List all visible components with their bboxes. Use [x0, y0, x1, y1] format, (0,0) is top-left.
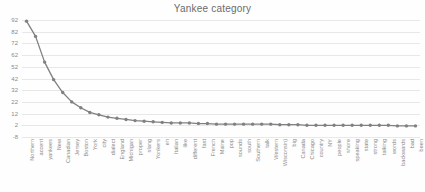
x-axis-tick-label: Italian — [173, 139, 179, 154]
data-point — [197, 122, 200, 125]
x-axis-tick-label: state — [363, 139, 369, 151]
y-axis-tick-label: 52 — [11, 64, 18, 70]
data-point — [278, 123, 281, 126]
data-point — [88, 111, 91, 114]
x-axis-tick-label: proper — [137, 139, 143, 155]
data-point — [396, 124, 399, 127]
x-axis-tick-label: different — [192, 139, 198, 159]
data-point — [224, 122, 227, 125]
data-point — [151, 120, 154, 123]
x-axis-tick-label: England — [119, 139, 125, 160]
data-point — [97, 113, 100, 116]
x-axis-tick-label: Michigan — [128, 139, 134, 161]
data-point — [233, 122, 236, 125]
data-point — [179, 121, 182, 124]
x-axis-tick-label: south — [246, 139, 252, 153]
x-axis-tick-label: dialect — [110, 139, 116, 155]
y-axis-tick-label: 12 — [11, 111, 18, 117]
line-series — [22, 20, 420, 137]
data-point — [323, 124, 326, 127]
data-point — [314, 124, 317, 127]
x-axis-tick-label: Canada — [300, 139, 306, 159]
data-point — [360, 124, 363, 127]
y-axis-tick-label: 62 — [11, 52, 18, 58]
y-axis-tick-label: 82 — [11, 29, 18, 35]
chart-container: Yankee category 9282726252423222122-8 No… — [0, 0, 425, 192]
y-axis-tick-label: 42 — [11, 76, 18, 82]
y-axis-tick-label: 2 — [15, 122, 18, 128]
x-axis-tick-label: city — [101, 139, 107, 147]
data-point — [369, 124, 372, 127]
data-point — [106, 115, 109, 118]
data-point — [296, 123, 299, 126]
x-axis-tick-label: shore — [345, 139, 351, 153]
data-point — [133, 119, 136, 122]
data-point — [269, 122, 272, 125]
x-axis-tick-label: sounds — [237, 139, 243, 157]
data-point — [332, 124, 335, 127]
y-axis-tick-label: 32 — [11, 87, 18, 93]
chart-title: Yankee category — [0, 3, 425, 14]
data-point — [70, 100, 73, 103]
data-point — [61, 91, 64, 94]
data-point — [52, 78, 55, 81]
x-axis-tick-label: strong — [372, 139, 378, 155]
data-point — [25, 19, 28, 22]
data-point — [34, 35, 37, 38]
data-point — [287, 123, 290, 126]
data-point — [79, 106, 82, 109]
x-axis-tick-label: country — [318, 139, 324, 157]
data-point — [124, 118, 127, 121]
data-point — [378, 124, 381, 127]
x-axis-tick-label: talking — [381, 139, 387, 155]
data-point — [387, 124, 390, 127]
x-axis-tick-label: people — [336, 139, 342, 156]
series-line — [27, 21, 416, 126]
data-point — [215, 122, 218, 125]
data-point — [142, 120, 145, 123]
data-point — [170, 121, 173, 124]
x-axis-tick-label: Western — [273, 139, 279, 160]
x-axis: NorthernaccentyankeesNewCanadianJerseyBo… — [22, 139, 420, 192]
x-axis-tick-label: big — [291, 139, 297, 146]
x-axis-tick-label: bad — [409, 139, 415, 148]
x-axis-tick-label: NY — [327, 139, 333, 147]
x-axis-tick-label: pop — [228, 139, 234, 148]
data-point — [350, 124, 353, 127]
x-axis-tick-label: speaking — [354, 139, 360, 161]
x-axis-tick-label: talk — [264, 139, 270, 148]
x-axis-tick-label: been — [418, 139, 424, 151]
x-axis-tick-label: fast — [201, 139, 207, 148]
x-axis-tick-label: slang — [146, 139, 152, 152]
gridline — [22, 137, 420, 138]
data-point — [260, 122, 263, 125]
x-axis-tick-label: words — [391, 139, 397, 154]
x-axis-tick-label: New — [56, 139, 62, 150]
x-axis-tick-label: Wisconsin) — [282, 139, 288, 166]
data-point — [115, 117, 118, 120]
y-axis: 9282726252423222122-8 — [0, 20, 20, 137]
x-axis-tick-label: backwards — [400, 139, 406, 166]
x-axis-tick-label: Northern — [29, 139, 35, 161]
y-axis-tick-label: 22 — [11, 99, 18, 105]
data-point — [341, 124, 344, 127]
y-axis-tick-label: 92 — [11, 17, 18, 23]
x-axis-tick-label: accent — [38, 139, 44, 155]
y-axis-tick-label: -8 — [13, 134, 18, 140]
plot-area — [22, 20, 420, 137]
data-point — [206, 122, 209, 125]
x-axis-tick-label: Chicago — [309, 139, 315, 160]
x-axis-tick-label: like — [182, 139, 188, 147]
x-axis-tick-label: yankees — [47, 139, 53, 160]
x-axis-tick-label: York — [92, 139, 98, 150]
data-point — [161, 121, 164, 124]
data-point — [405, 124, 408, 127]
x-axis-tick-label: Yonkers — [155, 139, 161, 159]
x-axis-tick-label: Maine — [219, 139, 225, 154]
x-axis-tick-label: Canadian — [65, 139, 71, 163]
data-point — [242, 122, 245, 125]
x-axis-tick-label: French — [210, 139, 216, 156]
data-point — [43, 60, 46, 63]
x-axis-tick-label: eh — [164, 139, 170, 145]
data-point — [305, 124, 308, 127]
